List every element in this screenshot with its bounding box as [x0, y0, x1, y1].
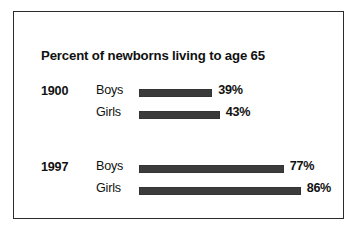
bar-value-label: 43%: [226, 105, 250, 119]
bar-track: [139, 165, 284, 173]
bar-track: [139, 89, 212, 97]
bar-row: Girls 86%: [14, 180, 356, 202]
bar-value-label: 39%: [218, 83, 242, 97]
bar-row: Girls 43%: [14, 104, 356, 126]
chart-title: Percent of newborns living to age 65: [41, 48, 265, 63]
bar-fill: [139, 187, 301, 195]
bar-track: [139, 187, 301, 195]
bar-row: Boys 39%: [14, 82, 356, 104]
bar-category-label: Girls: [96, 181, 121, 195]
bar-value-label: 77%: [290, 159, 314, 173]
bar-track: [139, 111, 220, 119]
bar-fill: [139, 165, 284, 173]
bar-category-label: Boys: [96, 159, 123, 173]
bar-value-label: 86%: [307, 181, 331, 195]
bar-category-label: Boys: [96, 83, 123, 97]
bar-category-label: Girls: [96, 105, 121, 119]
bar-fill: [139, 111, 220, 119]
bar-row: Boys 77%: [14, 158, 356, 180]
chart-figure: Percent of newborns living to age 65 190…: [0, 0, 356, 231]
chart-frame: Percent of newborns living to age 65 190…: [13, 11, 344, 219]
bar-fill: [139, 89, 212, 97]
